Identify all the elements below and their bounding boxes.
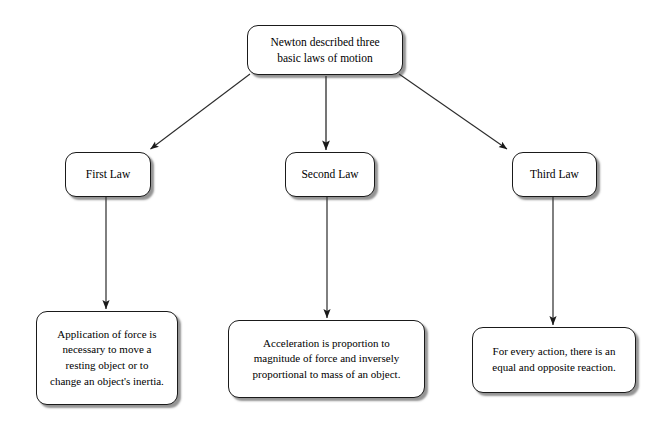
node-third-law-description-label: For every action, there is an equal and … bbox=[486, 344, 621, 375]
connector-root-to-third-law bbox=[399, 74, 507, 149]
node-second-law-description-label: Acceleration is proportion to magnitude … bbox=[247, 336, 407, 383]
node-first-law-description-label: Application of force is necessary to mov… bbox=[44, 327, 170, 389]
node-first-law-description[interactable]: Application of force is necessary to mov… bbox=[36, 311, 178, 405]
node-root-label: Newton described three basic laws of mot… bbox=[264, 34, 385, 67]
node-first-law-label: First Law bbox=[80, 166, 136, 182]
node-first-law[interactable]: First Law bbox=[65, 152, 151, 197]
node-third-law[interactable]: Third Law bbox=[512, 152, 597, 197]
flowchart-canvas: Newton described three basic laws of mot… bbox=[0, 0, 669, 424]
node-third-law-label: Third Law bbox=[524, 166, 585, 182]
node-second-law-description[interactable]: Acceleration is proportion to magnitude … bbox=[228, 320, 425, 398]
node-root[interactable]: Newton described three basic laws of mot… bbox=[247, 25, 403, 75]
node-second-law-label: Second Law bbox=[295, 166, 364, 182]
connector-root-to-first-law bbox=[151, 74, 251, 149]
node-second-law[interactable]: Second Law bbox=[285, 152, 375, 197]
node-third-law-description[interactable]: For every action, there is an equal and … bbox=[472, 327, 636, 393]
